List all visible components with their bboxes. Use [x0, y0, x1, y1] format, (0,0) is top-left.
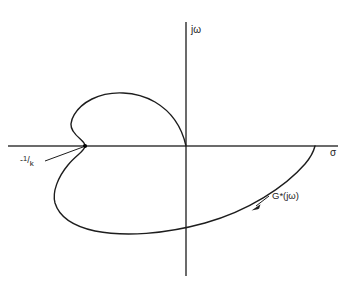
- direction-arrow-icon: [252, 204, 261, 210]
- critical-point-label-denominator: k: [30, 159, 35, 168]
- real-axis-label: σ: [330, 147, 337, 158]
- critical-point-leader-line: [45, 147, 83, 161]
- critical-point-dot: [83, 144, 87, 148]
- nyquist-plot-figure: -1/k G*(jω) jω σ: [0, 0, 351, 282]
- imaginary-axis-label: jω: [190, 24, 201, 35]
- curve-label-text: G*(jω): [272, 190, 299, 201]
- svg-text:-1/k: -1/k: [20, 154, 35, 169]
- nyquist-curve: [54, 93, 315, 234]
- critical-point-label: -1/k: [20, 154, 35, 169]
